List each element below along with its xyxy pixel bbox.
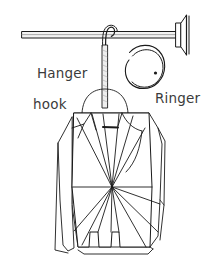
garment-tag [103, 127, 118, 128]
label-hanger-hook-line2: hook [19, 97, 88, 113]
wall-mount-flange [176, 15, 189, 55]
closet-rod [22, 32, 181, 39]
label-ringer: Ringer [155, 91, 200, 107]
garment-hem [78, 247, 153, 254]
figure-diagram: Hanger hook Ringer [0, 0, 211, 278]
ring-end-dot [154, 71, 157, 74]
label-hanger-hook: Hanger hook [19, 50, 88, 143]
hanger-hook-shaft [102, 45, 107, 108]
label-hanger-hook-line1: Hanger [37, 65, 88, 81]
split-ring [125, 45, 164, 88]
